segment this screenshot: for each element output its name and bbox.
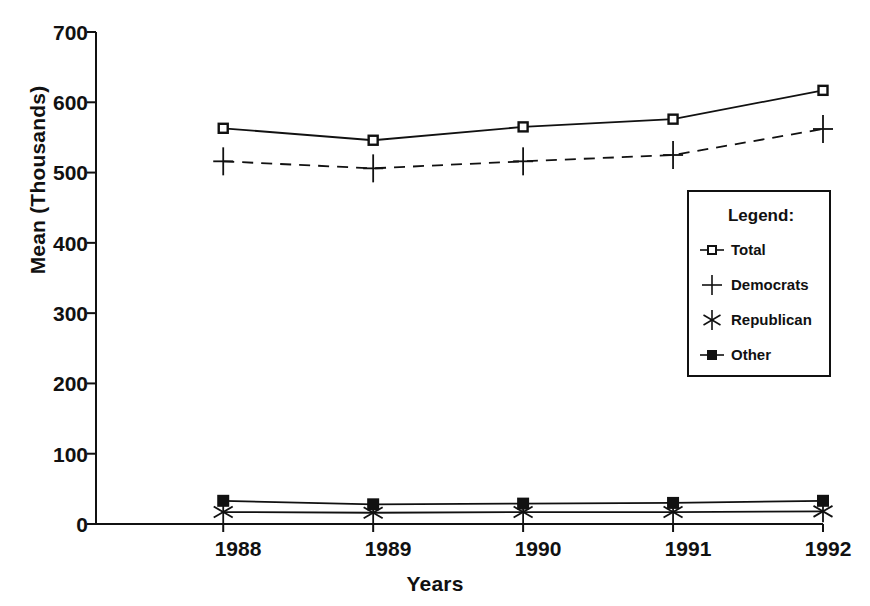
marker-other-1991 [667,497,679,509]
legend-label-democrats: Democrats [731,276,809,293]
marker-other-1990 [517,498,529,510]
marker-total-1992 [819,86,828,95]
legend-item-other[interactable]: Other [699,341,833,368]
series-other [217,495,829,511]
filled-square-marker-icon [699,344,725,366]
plus-marker-icon [699,274,725,296]
line-chart: Mean (Thousands) 700 600 500 400 300 200… [0,0,870,606]
marker-total-1990 [519,122,528,131]
legend-item-democrats[interactable]: Democrats [699,271,833,298]
legend-label-republican: Republican [731,311,812,328]
legend-item-total[interactable]: Total [699,236,833,263]
legend-label-total: Total [731,241,766,258]
marker-other-1989 [367,498,379,510]
legend-title: Legend: [689,206,833,226]
series-total [219,86,828,145]
marker-total-1988 [219,124,228,133]
asterisk-marker-icon [699,309,725,331]
legend: Legend: Total Democrats [687,190,831,377]
y-axis-ticks [87,32,96,524]
marker-other-1988 [217,495,229,507]
legend-label-other: Other [731,346,771,363]
marker-other-1992 [817,495,829,507]
x-axis-title: Years [0,572,870,596]
marker-total-1989 [369,136,378,145]
open-square-marker-icon [699,239,725,261]
marker-total-1991 [669,115,678,124]
series-line-total [223,90,823,140]
legend-item-republican[interactable]: Republican [699,306,833,333]
x-axis-ticks [223,524,823,532]
